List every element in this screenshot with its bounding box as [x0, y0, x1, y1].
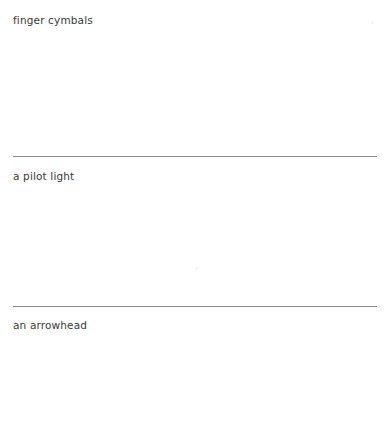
document-page: finger cymbals a pilot light an arrowhea… — [0, 0, 389, 437]
list-item: an arrowhead — [13, 319, 87, 331]
list-item: finger cymbals — [13, 14, 93, 26]
list-item: a pilot light — [13, 170, 74, 182]
speck-top-right-icon — [371, 21, 374, 24]
speck-middle-icon — [195, 267, 198, 270]
horizontal-rule-1 — [13, 156, 377, 157]
horizontal-rule-2 — [13, 306, 377, 307]
